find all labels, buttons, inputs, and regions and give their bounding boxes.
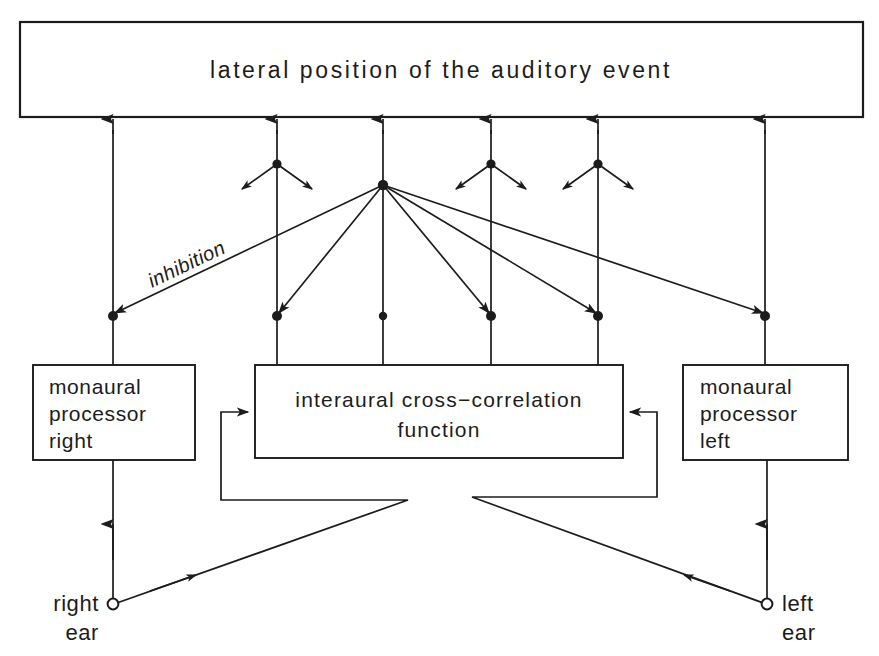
inhibition-ray-to-ch5 xyxy=(383,185,596,313)
interaural-cross-correlation-box: interaural cross−correlation function xyxy=(255,365,623,458)
inhibition-ray-to-ch4 xyxy=(383,185,489,313)
channel-dot-5 xyxy=(593,311,603,321)
left-ear-path-direction-arrow xyxy=(684,575,730,591)
inhibition-ray-to-ch6 xyxy=(383,185,763,313)
monaural-processor-right-line1: monaural xyxy=(49,375,141,398)
left-ear-terminal-dot xyxy=(762,599,773,610)
inhibition-node-2-right-arrow xyxy=(277,164,312,189)
right-ear-label-line1: right xyxy=(53,591,99,616)
monaural-processor-right-line2: processor xyxy=(49,402,147,425)
interaural-cross-correlation-rect xyxy=(255,365,623,458)
lateral-inhibition-nodes xyxy=(242,159,633,189)
inhibition-ray-to-ch2 xyxy=(279,185,383,313)
interaural-cross-correlation-line2: function xyxy=(397,418,480,441)
monaural-processor-left-line3: left xyxy=(700,429,730,452)
central-hub-dot xyxy=(378,180,388,190)
channel-dot-3 xyxy=(379,312,387,320)
left-ear-label-line1: left xyxy=(782,591,814,616)
right-ear-terminal-dot xyxy=(108,599,119,610)
diagram-canvas: lateral position of the auditory event xyxy=(0,0,879,656)
inhibition-node-5-left-arrow xyxy=(563,164,598,189)
inhibition-node-4-left-arrow xyxy=(456,164,491,189)
monaural-processor-left-line1: monaural xyxy=(700,375,792,398)
ear-to-processor-lines xyxy=(113,460,767,604)
channel-dot-2 xyxy=(272,311,282,321)
monaural-processor-right-box: monaural processor right xyxy=(33,365,195,460)
channel-dot-6 xyxy=(760,311,770,321)
lateral-position-box: lateral position of the auditory event xyxy=(20,22,863,117)
right-ear-path-direction-arrow xyxy=(150,575,196,591)
monaural-processor-right-line3: right xyxy=(49,429,93,452)
channel-dot-4 xyxy=(486,311,496,321)
inhibition-node-2-left-arrow xyxy=(242,164,277,189)
left-ear-label-line2: ear xyxy=(782,620,816,645)
interaural-cross-correlation-line1: interaural cross−correlation xyxy=(295,388,582,411)
monaural-processor-left-line2: processor xyxy=(700,402,798,425)
lateral-position-box-label: lateral position of the auditory event xyxy=(210,57,672,83)
monaural-processor-left-box: monaural processor left xyxy=(683,365,848,460)
right-ear-label: right ear xyxy=(53,591,99,645)
right-ear-label-line2: ear xyxy=(65,620,99,645)
left-ear-label: left ear xyxy=(782,591,816,645)
auditory-model-diagram: lateral position of the auditory event xyxy=(0,0,879,656)
channel-receiving-dots xyxy=(108,311,770,321)
ear-terminals xyxy=(108,599,773,610)
inhibition-node-5-right-arrow xyxy=(598,164,633,189)
inhibition-node-4-right-arrow xyxy=(491,164,526,189)
channel-dot-1 xyxy=(108,311,118,321)
inhibition-label: inhibition xyxy=(144,236,228,292)
inhibition-ray-to-ch1 xyxy=(115,185,383,313)
